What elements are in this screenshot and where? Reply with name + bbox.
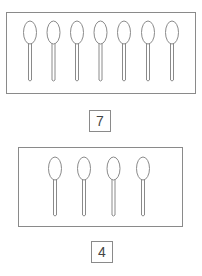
spoon-icon (78, 157, 91, 216)
spoon-icon (137, 157, 150, 216)
spoon-icon (107, 157, 120, 216)
spoon-icon (49, 157, 62, 216)
spoons-bottom-row (0, 0, 202, 276)
count-label-bottom: 4 (91, 241, 113, 263)
